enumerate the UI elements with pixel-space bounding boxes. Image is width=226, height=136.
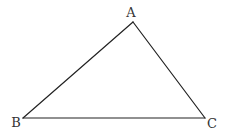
- edge-ca: [133, 22, 205, 118]
- vertex-label-a: A: [125, 5, 136, 20]
- vertex-label-c: C: [207, 116, 217, 131]
- vertex-label-b: B: [11, 115, 21, 130]
- edge-ab: [23, 22, 133, 118]
- triangle-diagram: A B C: [0, 0, 226, 136]
